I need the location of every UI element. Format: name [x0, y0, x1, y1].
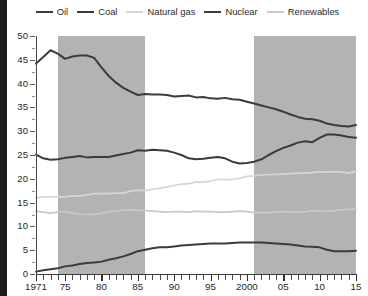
x-tick	[240, 275, 241, 280]
y-tick-minor	[32, 143, 35, 144]
legend-label: Coal	[98, 7, 117, 16]
x-tick	[218, 275, 219, 280]
series-lines	[36, 36, 356, 274]
y-tick	[30, 60, 35, 61]
x-tick	[167, 275, 168, 280]
x-tick	[341, 275, 342, 280]
legend-item-oil: Oil	[36, 7, 68, 16]
y-tick-label: 40	[17, 79, 28, 89]
y-tick-label: 35	[17, 102, 28, 112]
chart-legend: OilCoalNatural gasNuclearRenewables	[7, 0, 368, 24]
legend-item-nuclear: Nuclear	[204, 7, 257, 16]
x-axis-labels: 197175808590952000051015	[0, 282, 368, 296]
y-tick	[30, 155, 35, 156]
x-tick	[43, 275, 44, 280]
legend-item-coal: Coal	[77, 7, 117, 16]
x-tick-label: 90	[169, 282, 180, 292]
x-tick-label: 2000	[236, 282, 258, 292]
y-tick-minor	[32, 48, 35, 49]
x-tick	[349, 275, 350, 280]
legend-swatch-icon	[36, 11, 53, 13]
y-tick	[30, 107, 35, 108]
x-tick	[334, 275, 335, 280]
x-tick	[72, 275, 73, 280]
x-tick-label: 75	[60, 282, 71, 292]
y-axis-line	[36, 36, 37, 275]
y-tick-minor	[32, 96, 35, 97]
y-tick	[30, 179, 35, 180]
y-tick	[30, 250, 35, 251]
y-tick-minor	[32, 215, 35, 216]
x-tick	[305, 275, 306, 280]
legend-swatch-icon	[126, 11, 143, 13]
x-tick	[261, 275, 262, 280]
x-tick	[123, 275, 124, 280]
x-tick	[203, 275, 204, 280]
x-tick-label: 10	[314, 282, 325, 292]
legend-label: Oil	[57, 7, 68, 16]
x-tick	[58, 275, 59, 280]
series-line-coal	[36, 135, 356, 164]
y-tick-label: 15	[17, 198, 28, 208]
y-tick	[30, 84, 35, 85]
y-tick-label: 30	[17, 126, 28, 136]
x-tick	[276, 275, 277, 280]
legend-item-natural-gas: Natural gas	[126, 7, 195, 16]
x-tick	[232, 275, 233, 280]
y-tick-label: 25	[17, 150, 28, 160]
legend-swatch-icon	[267, 11, 284, 13]
x-tick	[291, 275, 292, 280]
series-line-oil	[36, 50, 356, 126]
x-tick	[181, 275, 182, 280]
chart-screenshot: OilCoalNatural gasNuclearRenewables 0510…	[0, 0, 368, 296]
x-tick	[269, 275, 270, 280]
y-tick	[30, 203, 35, 204]
plot-area	[36, 36, 356, 274]
legend-label: Nuclear	[225, 7, 257, 16]
legend-item-renewables: Renewables	[267, 7, 340, 16]
x-tick	[189, 275, 190, 280]
x-tick	[87, 275, 88, 280]
legend-label: Natural gas	[147, 7, 195, 16]
y-tick	[30, 36, 35, 37]
x-tick-label: 85	[132, 282, 143, 292]
y-tick-label: 0	[23, 269, 28, 279]
x-tick-label: 80	[96, 282, 107, 292]
x-tick	[327, 275, 328, 280]
x-tick	[152, 275, 153, 280]
legend-label: Renewables	[288, 7, 340, 16]
y-axis-labels: 05101520253035404550	[0, 36, 28, 274]
x-tick-label: 15	[351, 282, 362, 292]
x-tick	[254, 275, 255, 280]
y-tick-label: 20	[17, 174, 28, 184]
legend-swatch-icon	[77, 11, 94, 13]
y-tick-label: 5	[23, 245, 28, 255]
x-tick	[80, 275, 81, 280]
y-tick-minor	[32, 238, 35, 239]
legend-swatch-icon	[204, 11, 221, 13]
y-tick-label: 50	[17, 31, 28, 41]
series-line-renewables	[36, 209, 356, 215]
series-line-natural-gas	[36, 171, 356, 198]
y-tick-minor	[32, 191, 35, 192]
x-tick	[160, 275, 161, 280]
x-tick-label: 05	[278, 282, 289, 292]
y-tick-minor	[32, 167, 35, 168]
x-tick	[225, 275, 226, 280]
x-tick	[131, 275, 132, 280]
y-tick-minor	[32, 262, 35, 263]
chart-area: 05101520253035404550 1971758085909520000…	[0, 24, 368, 296]
y-tick-minor	[32, 72, 35, 73]
x-tick	[312, 275, 313, 280]
x-tick	[109, 275, 110, 280]
x-tick-label: 95	[205, 282, 216, 292]
y-tick	[30, 226, 35, 227]
y-tick-label: 45	[17, 55, 28, 65]
y-tick	[30, 274, 35, 275]
y-tick	[30, 131, 35, 132]
x-tick	[116, 275, 117, 280]
x-axis-ticks	[36, 275, 357, 281]
x-tick	[145, 275, 146, 280]
y-tick-minor	[32, 119, 35, 120]
x-tick	[196, 275, 197, 280]
